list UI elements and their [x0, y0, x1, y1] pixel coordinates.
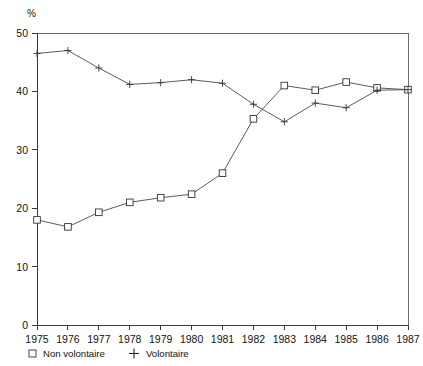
y-tick-label-10: 10 [16, 261, 28, 273]
data-point-non-volontaire-1985 [343, 79, 350, 86]
data-point-volontaire-1985 [343, 104, 350, 111]
data-point-volontaire-1980 [188, 76, 195, 83]
x-tick-label-1977: 1977 [87, 333, 111, 345]
data-point-non-volontaire-1979 [157, 194, 164, 201]
chart-legend: Non volontaire Volontaire [29, 348, 189, 359]
data-point-non-volontaire-1975 [34, 217, 41, 224]
series-non-volontaire [34, 79, 412, 230]
x-tick-label-1980: 1980 [180, 333, 204, 345]
x-tick-label-1985: 1985 [334, 333, 358, 345]
y-tick-label-0: 0 [22, 319, 28, 331]
data-point-non-volontaire-1983 [281, 82, 288, 89]
x-tick-label-1976: 1976 [56, 333, 80, 345]
y-tick-label-20: 20 [16, 202, 28, 214]
y-axis-tick-labels: 01020304050 [16, 27, 28, 331]
x-axis-ticks [37, 325, 408, 330]
x-tick-label-1987: 1987 [396, 333, 420, 345]
x-tick-label-1984: 1984 [304, 333, 328, 345]
data-point-volontaire-1981 [219, 80, 226, 87]
x-tick-label-1981: 1981 [211, 333, 235, 345]
data-point-non-volontaire-1982 [250, 116, 257, 123]
data-point-non-volontaire-1984 [312, 87, 319, 94]
data-point-non-volontaire-1980 [188, 191, 195, 198]
series-layer [33, 47, 411, 230]
x-tick-label-1982: 1982 [242, 333, 266, 345]
data-point-volontaire-1984 [312, 99, 319, 106]
data-point-non-volontaire-1978 [126, 199, 133, 206]
legend-marker-non-volontaire [29, 350, 36, 357]
x-tick-label-1979: 1979 [149, 333, 173, 345]
y-tick-label-40: 40 [16, 85, 28, 97]
data-point-volontaire-1983 [281, 118, 288, 125]
legend-marker-volontaire [129, 349, 139, 359]
data-point-volontaire-1979 [157, 79, 164, 86]
legend-label-non-volontaire: Non volontaire [43, 348, 105, 359]
y-tick-label-30: 30 [16, 144, 28, 156]
line-chart: % 01020304050 19751976197719781979198019… [0, 0, 423, 366]
plot-frame [37, 33, 408, 325]
y-tick-label-50: 50 [16, 27, 28, 39]
legend-label-volontaire: Volontaire [146, 348, 189, 359]
x-tick-label-1975: 1975 [25, 333, 49, 345]
x-tick-label-1986: 1986 [365, 333, 389, 345]
data-point-non-volontaire-1977 [96, 209, 103, 216]
y-axis-ticks [32, 33, 37, 325]
series-volontaire [33, 47, 411, 125]
data-point-volontaire-1982 [250, 101, 257, 108]
data-point-non-volontaire-1976 [65, 224, 72, 231]
chart-canvas: % 01020304050 19751976197719781979198019… [0, 0, 423, 366]
data-point-volontaire-1975 [33, 50, 40, 57]
x-tick-label-1983: 1983 [273, 333, 297, 345]
data-point-volontaire-1977 [95, 64, 102, 71]
y-axis-unit-label: % [27, 8, 36, 19]
data-point-volontaire-1976 [64, 47, 71, 54]
data-point-non-volontaire-1981 [219, 170, 226, 177]
data-point-volontaire-1978 [126, 81, 133, 88]
x-axis-tick-labels: 1975197619771978197919801981198219831984… [25, 333, 420, 345]
x-tick-label-1978: 1978 [118, 333, 142, 345]
